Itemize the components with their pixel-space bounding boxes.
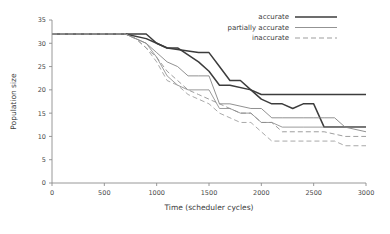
y-axis-title: Population size <box>9 73 18 130</box>
y-tick-label: 20 <box>38 86 46 94</box>
x-tick-label: 1000 <box>148 189 165 197</box>
x-tick-label: 0 <box>50 189 54 197</box>
y-tick-label: 5 <box>42 156 46 164</box>
legend-label-0: accurate <box>258 13 289 21</box>
y-tick-label: 0 <box>42 179 46 187</box>
legend-label-1: partially accurate <box>228 24 290 32</box>
y-tick-label: 15 <box>38 110 46 118</box>
chart-container: 05101520253035050010001500200025003000Ti… <box>0 0 390 234</box>
series-line-partially-accurate-2 <box>52 34 366 127</box>
y-tick-label: 30 <box>38 40 46 48</box>
legend-label-2: inaccurate <box>252 34 289 42</box>
data-series-layer <box>52 34 366 146</box>
x-tick-label: 2000 <box>253 189 270 197</box>
x-tick-label: 2500 <box>305 189 322 197</box>
x-tick-label: 500 <box>98 189 110 197</box>
series-line-inaccurate-1 <box>52 34 366 136</box>
line-chart: 05101520253035050010001500200025003000Ti… <box>0 0 390 234</box>
x-tick-label: 1500 <box>201 189 218 197</box>
x-axis-title: Time (scheduler cycles) <box>164 203 254 212</box>
series-line-accurate-2 <box>52 34 366 127</box>
legend: accuratepartially accurateinaccurate <box>228 13 338 42</box>
y-tick-label: 35 <box>38 16 46 24</box>
y-tick-label: 10 <box>38 133 46 141</box>
series-line-accurate-1 <box>52 34 366 95</box>
y-tick-label: 25 <box>38 63 46 71</box>
x-tick-label: 3000 <box>358 189 375 197</box>
